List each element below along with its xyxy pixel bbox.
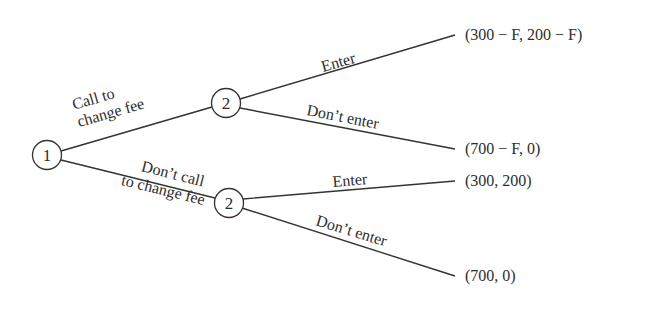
label-lower-enter: Enter xyxy=(332,170,369,190)
node-label-player-2-upper: 2 xyxy=(222,94,231,113)
node-player-2-lower: 2 xyxy=(215,189,244,218)
payoff-call-dont-enter: (700 − F, 0) xyxy=(465,140,540,158)
node-player-1: 1 xyxy=(33,141,62,170)
game-tree-diagram: 1 2 2 Call to change fee Don’t call to c… xyxy=(0,0,660,312)
label-call-to-change-fee: Call to change fee xyxy=(70,77,146,131)
node-label-player-2-lower: 2 xyxy=(225,194,234,213)
edge-lower-dont-enter xyxy=(242,208,455,276)
payoff-call-enter: (300 − F, 200 − F) xyxy=(465,26,582,44)
payoff-dontcall-dont-enter: (700, 0) xyxy=(465,267,516,285)
label-dont-call-to-change-fee: Don’t call to change fee xyxy=(120,154,211,210)
payoff-dontcall-enter: (300, 200) xyxy=(465,172,532,190)
label-upper-enter: Enter xyxy=(319,49,358,75)
node-player-2-upper: 2 xyxy=(212,89,241,118)
node-label-player-1: 1 xyxy=(43,146,52,165)
